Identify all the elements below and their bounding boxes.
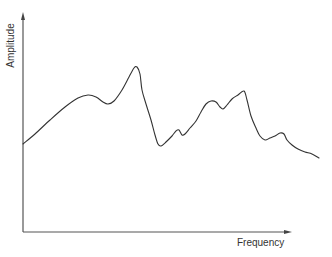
y-axis-label: Amplitude <box>5 16 16 76</box>
y-axis-arrow-icon <box>21 12 25 20</box>
x-axis <box>23 230 292 234</box>
x-axis-arrow-icon <box>284 230 292 234</box>
y-axis <box>21 12 25 232</box>
chart-canvas <box>0 0 332 257</box>
spectrum-curve <box>23 66 319 158</box>
x-axis-label: Frequency <box>237 237 284 248</box>
